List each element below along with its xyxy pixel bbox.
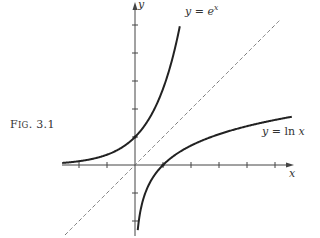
ln-curve-label: y = ln x <box>262 125 305 138</box>
exp-label-sup: x <box>214 3 218 12</box>
ln-label-fn: ln <box>284 125 295 138</box>
identity-line <box>65 19 281 235</box>
plot-area <box>0 0 320 238</box>
ln-label-y: y <box>262 125 268 138</box>
exp-intercept-point <box>133 135 136 138</box>
y-axis-label: y <box>138 0 144 11</box>
ln-label-x: x <box>299 125 305 138</box>
exp-label-y: y <box>185 5 191 18</box>
exp-curve <box>62 26 180 163</box>
x-axis-label: x <box>289 167 295 180</box>
y-axis-arrow-icon <box>133 2 138 10</box>
exp-curve-label: y = ex <box>185 3 218 18</box>
ln-label-eq: = <box>272 125 281 138</box>
curves <box>62 19 292 235</box>
exp-label-eq: = <box>195 5 204 18</box>
ln-intercept-point <box>161 163 164 166</box>
